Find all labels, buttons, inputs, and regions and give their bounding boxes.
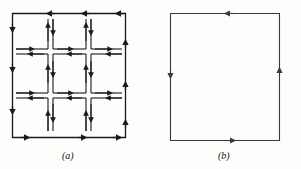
- panel-a-outer-arrowheads: [13, 14, 126, 138]
- caption-panel-b: (b): [218, 150, 230, 161]
- figure-root: (a) (b): [0, 0, 301, 169]
- panel-a-outer-boundary: [12, 13, 126, 138]
- panel-b-group: [170, 13, 280, 141]
- panel-a-group: [12, 13, 126, 138]
- caption-panel-a: (a): [62, 150, 74, 161]
- figure-canvas: [0, 0, 301, 169]
- panel-a-interior-vertical-edges: [48, 19, 91, 131]
- panel-a-corner-connectors: [44, 41, 95, 104]
- panel-a-interior-horizontal-edges: [16, 49, 122, 98]
